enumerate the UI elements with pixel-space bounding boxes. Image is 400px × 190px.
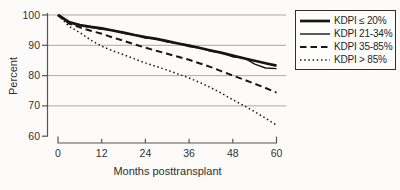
legend-item-kdpi-21-34: KDPI 21-34%	[300, 27, 391, 40]
legend-item-kdpi-le-20: KDPI ≤ 20%	[300, 14, 391, 27]
legend-label: KDPI ≤ 20%	[334, 15, 386, 26]
legend: KDPI ≤ 20% KDPI 21-34% KDPI 35-85% KDPI …	[295, 10, 396, 70]
legend-line-sample-dotted-icon	[300, 57, 330, 63]
x-axis-title: Months posttransplant	[58, 165, 277, 177]
legend-label: KDPI > 85%	[334, 54, 387, 65]
legend-label: KDPI 21-34%	[334, 28, 392, 39]
legend-line-sample-dashed-icon	[300, 44, 330, 50]
curve-kdpi-21-34	[58, 15, 277, 69]
survival-figure: 1009080706001224364860 Percent Months po…	[0, 0, 400, 190]
x-tick-label: 0	[55, 147, 61, 159]
legend-label: KDPI 35-85%	[334, 41, 392, 52]
legend-item-kdpi-gt-85: KDPI > 85%	[300, 53, 391, 66]
legend-line-sample-thick-solid-icon	[300, 18, 330, 24]
y-axis-title: Percent	[7, 32, 21, 120]
y-tick-label: 60	[28, 130, 40, 142]
legend-line-sample-thin-solid-icon	[300, 31, 330, 37]
y-tick-label: 80	[28, 69, 40, 81]
y-tick-label: 90	[28, 39, 40, 51]
y-tick-label: 100	[22, 9, 40, 21]
x-tick-label: 36	[183, 147, 195, 159]
y-tick-label: 70	[28, 99, 40, 111]
legend-item-kdpi-35-85: KDPI 35-85%	[300, 40, 391, 53]
x-tick-label: 24	[140, 147, 152, 159]
x-tick-label: 12	[96, 147, 108, 159]
x-tick-label: 60	[271, 147, 283, 159]
x-tick-label: 48	[227, 147, 239, 159]
